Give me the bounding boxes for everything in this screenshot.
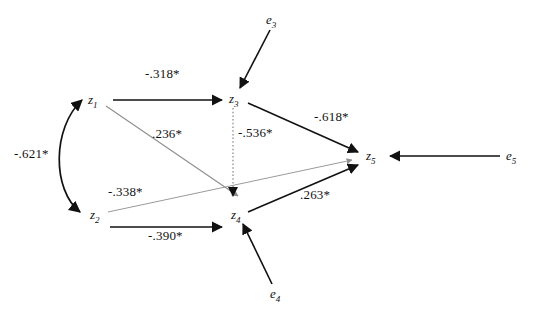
node-z2: z2 <box>90 208 100 225</box>
node-z5-subscript: 5 <box>371 156 376 166</box>
node-z4: z4 <box>231 208 241 225</box>
node-e5-subscript: 5 <box>512 156 517 166</box>
path-arrow-e3-z3 <box>240 30 270 88</box>
node-z1: z1 <box>88 93 98 110</box>
path-arrows-svg <box>0 0 543 323</box>
node-e3: e3 <box>266 13 276 30</box>
coefficient-z1-z2: -.621* <box>14 147 49 160</box>
node-z4-subscript: 4 <box>236 215 241 225</box>
node-z2-subscript: 2 <box>95 215 100 225</box>
node-z3-subscript: 3 <box>234 99 239 109</box>
coefficient-z3-z5: -.618* <box>314 110 349 123</box>
coefficient-z2-z4: -.390* <box>148 229 183 242</box>
path-diagram: z1 z2 z3 z4 z5 e3 e4 e5 -.318* .236* -.5… <box>0 0 543 323</box>
node-z5: z5 <box>366 149 376 166</box>
node-e5: e5 <box>506 149 516 166</box>
coefficient-z1-z3: -.318* <box>145 67 180 80</box>
node-z3: z3 <box>229 92 239 109</box>
coefficient-z1-z4: .236* <box>152 127 182 140</box>
node-e4-subscript: 4 <box>276 294 281 304</box>
node-z1-subscript: 1 <box>93 100 98 110</box>
node-e4: e4 <box>270 287 280 304</box>
coefficient-z2-z5: -.338* <box>108 185 143 198</box>
coefficient-z3-z4: -.536* <box>238 126 273 139</box>
path-arrow-z1-z4 <box>106 106 238 196</box>
path-arrow-z1-z2-correlation <box>59 100 82 212</box>
path-arrow-e4-z4 <box>243 224 272 284</box>
node-e3-subscript: 3 <box>272 20 277 30</box>
path-arrow-z2-z5 <box>108 160 352 212</box>
coefficient-z4-z5: .263* <box>300 188 330 201</box>
